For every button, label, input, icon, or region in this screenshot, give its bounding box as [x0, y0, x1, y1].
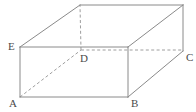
hidden-edge-group	[20, 5, 183, 97]
vertex-label-c: C	[186, 52, 193, 63]
edge-A-D	[20, 50, 81, 97]
vertex-label-b: B	[131, 98, 138, 109]
solid-edge-group	[20, 5, 183, 97]
prism-figure: ABCDE	[0, 0, 196, 112]
vertex-label-e: E	[8, 41, 15, 52]
edge-B-C	[128, 51, 183, 97]
edge-D-G	[80, 5, 81, 50]
edge-E-G	[20, 5, 80, 47]
vertex-label-a: A	[9, 98, 17, 109]
prism-drawing	[0, 0, 196, 112]
edge-F-H	[128, 5, 183, 47]
vertex-label-d: D	[80, 53, 88, 64]
